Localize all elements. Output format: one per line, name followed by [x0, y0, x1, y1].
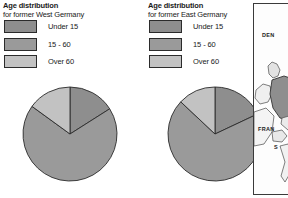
legend-item-over-60: Over 60 — [4, 55, 136, 73]
legend-west: Under 15 15 - 60 Over 60 — [4, 20, 136, 73]
pie-svg-east — [167, 86, 263, 182]
legend-label-over-60: Over 60 — [48, 57, 74, 66]
legend-swatch-over-60 — [149, 55, 182, 68]
legend-label-under-15: Under 15 — [193, 22, 223, 31]
legend-swatch-15-60 — [4, 38, 37, 51]
map-panel-europe: DEN FRAN S — [253, 3, 288, 195]
legend-heading-west: Age distribution for former West Germany — [3, 2, 84, 19]
legend-subtitle-east: for former East Germany — [148, 11, 227, 20]
pie-chart-east — [167, 86, 263, 182]
infographic-root: Age distribution for former West Germany… — [0, 0, 288, 198]
legend-heading-east: Age distribution for former East Germany — [148, 2, 227, 19]
legend-swatch-under-15 — [4, 20, 37, 33]
legend-swatch-under-15 — [149, 20, 182, 33]
legend-swatch-over-60 — [4, 55, 37, 68]
legend-label-15-60: 15 - 60 — [48, 40, 71, 49]
legend-label-15-60: 15 - 60 — [193, 40, 216, 49]
legend-label-over-60: Over 60 — [193, 57, 219, 66]
switzerland-label: S — [274, 144, 278, 150]
france-label: FRAN — [258, 126, 274, 132]
legend-item-under-15: Under 15 — [4, 20, 136, 38]
chart-panel-west: Age distribution for former West Germany… — [0, 0, 142, 198]
legend-label-under-15: Under 15 — [48, 22, 78, 31]
legend-swatch-15-60 — [149, 38, 182, 51]
pie-svg-west — [22, 86, 118, 182]
legend-subtitle-west: for former West Germany — [3, 11, 84, 20]
denmark-label: DEN — [262, 32, 275, 38]
legend-item-15-60: 15 - 60 — [4, 38, 136, 56]
pie-chart-west — [22, 86, 118, 182]
